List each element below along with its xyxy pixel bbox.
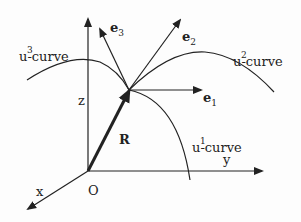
e2-index: 2 (190, 37, 196, 47)
e3-vector (100, 29, 129, 90)
e3-index: 3 (118, 28, 124, 38)
e3-label: e3 (110, 21, 124, 34)
origin-label: O (88, 184, 99, 197)
e1-index: 1 (211, 98, 217, 108)
e2-label: e2 (182, 30, 196, 43)
u1-suffix: -curve (200, 140, 241, 155)
diagram-graphics (0, 0, 301, 222)
curvilinear-coordinates-diagram: z y x O R e1 e2 e3 u-curve 1 u-curve 2 u… (0, 0, 301, 222)
u2-superscript: 2 (241, 51, 247, 60)
u1-curve (129, 90, 190, 180)
x-axis-label: x (36, 185, 43, 198)
u2-suffix: -curve (241, 54, 282, 69)
z-axis-label: z (78, 94, 85, 107)
e1-label: e1 (203, 91, 217, 104)
u3-suffix: -curve (27, 49, 68, 64)
u1-superscript: 1 (200, 137, 206, 146)
e2-vector (129, 20, 180, 90)
position-vector-r (88, 91, 129, 171)
position-vector-label: R (119, 133, 130, 146)
u3-superscript: 3 (27, 46, 33, 55)
